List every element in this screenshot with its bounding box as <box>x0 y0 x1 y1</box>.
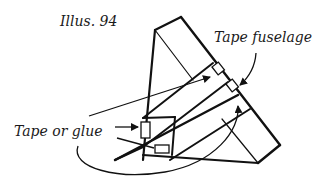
fuselage <box>115 63 250 160</box>
illustration-canvas: Illus. 94 Tape fuselage Tape or glue <box>0 0 335 185</box>
figure-title: Illus. 94 <box>60 14 117 28</box>
tape-piece-left <box>141 122 150 138</box>
label-tape-fuselage: Tape fuselage <box>214 30 312 44</box>
tape-piece-top <box>212 62 224 75</box>
paper-airplane-diagram <box>0 0 335 185</box>
label-tape-or-glue: Tape or glue <box>14 124 103 138</box>
tape-piece-bottom <box>155 145 169 153</box>
